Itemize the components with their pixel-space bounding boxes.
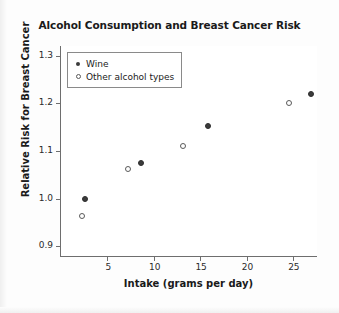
y-axis-tick: 0.9 [56, 246, 61, 247]
open-circle-icon [73, 74, 83, 79]
data-point-wine [308, 91, 314, 97]
y-axis-tick-label: 1.3 [39, 50, 53, 60]
data-point-wine [138, 160, 144, 166]
chart-title: Alcohol Consumption and Breast Cancer Ri… [0, 19, 339, 31]
x-axis-tick: 5 [107, 256, 108, 261]
plot-frame: Wine Other alcohol types 0.91.01.11.21.3… [60, 46, 317, 257]
y-axis-tick-label: 1.1 [39, 145, 53, 155]
data-point-other [180, 143, 186, 149]
x-axis-tick-label: 5 [106, 262, 112, 272]
filled-circle-icon [73, 62, 83, 66]
x-axis-tick-label: 25 [288, 262, 299, 272]
x-axis-tick: 15 [200, 256, 201, 261]
data-point-other [125, 166, 131, 172]
x-axis-tick: 10 [154, 256, 155, 261]
x-axis-tick: 20 [247, 256, 248, 261]
chart-legend: Wine Other alcohol types [67, 52, 182, 88]
legend-label-wine: Wine [86, 59, 108, 69]
y-axis-label: Relative Risk for Breast Cancer [20, 5, 31, 215]
data-point-wine [205, 123, 211, 129]
data-point-other [286, 100, 292, 106]
y-axis-tick: 1.2 [56, 103, 61, 104]
legend-item-other: Other alcohol types [73, 70, 174, 83]
legend-label-other: Other alcohol types [86, 72, 174, 82]
y-axis-tick-label: 0.9 [39, 240, 53, 250]
x-axis-tick: 25 [293, 256, 294, 261]
x-axis-tick-label: 20 [242, 262, 253, 272]
y-axis-tick: 1.3 [56, 56, 61, 57]
y-axis-tick-label: 1.2 [39, 97, 53, 107]
y-axis-tick: 1.0 [56, 199, 61, 200]
y-axis-tick: 1.1 [56, 151, 61, 152]
x-axis-tick-label: 10 [149, 262, 160, 272]
x-axis-tick-label: 15 [195, 262, 206, 272]
x-axis-label: Intake (grams per day) [60, 278, 317, 289]
y-axis-tick-label: 1.0 [39, 193, 53, 203]
chart-figure: Alcohol Consumption and Breast Cancer Ri… [0, 0, 339, 313]
data-point-other [79, 213, 85, 219]
legend-item-wine: Wine [73, 57, 174, 70]
data-point-wine [82, 196, 88, 202]
